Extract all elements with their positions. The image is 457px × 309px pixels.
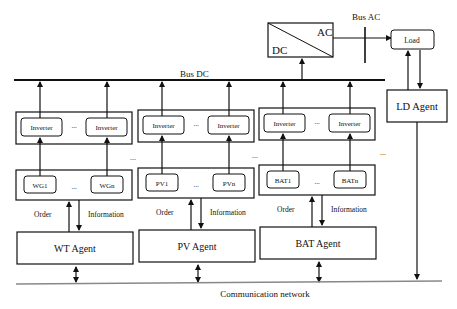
pv-unit-ellipsis: ... (193, 181, 199, 189)
pv-unit-last-label: PVn (223, 180, 236, 188)
wt-unit-last-label: WGn (99, 182, 115, 190)
bat-group: InverterInverter...BAT1BATn...OrderInfor… (259, 82, 376, 282)
pv-inverter-ellipsis: ... (193, 120, 199, 128)
converter-dc-label: DC (272, 44, 287, 56)
communication-network-label: Communication network (220, 289, 310, 299)
bus-dc-label: Bus DC (180, 69, 209, 79)
wt-inverter-last-label: Inverter (95, 124, 118, 132)
pv-agent-label: PV Agent (178, 241, 217, 252)
pv-inverter-last-label: Inverter (217, 122, 240, 130)
bus-ac-label: Bus AC (352, 12, 380, 22)
bat-unit-first-label: BAT1 (275, 177, 292, 185)
communication-network-line (16, 281, 442, 284)
wt-group: InverterInverter...WG1WGn...OrderInforma… (16, 82, 133, 282)
bat-unit-last-label: BATn (342, 177, 359, 185)
pv-information-label: Information (210, 208, 246, 217)
ellipsis-between-pv-bat: ... (252, 151, 258, 160)
pv-unit-first-label: PV1 (156, 180, 169, 188)
ellipsis-between-wt-pv: ... (130, 153, 136, 162)
bat-inverter-first-label: Inverter (273, 120, 296, 128)
bat-unit-ellipsis: ... (314, 178, 320, 186)
ellipsis-after-bat: ... (380, 148, 386, 157)
microgrid-agent-diagram: AC DC Bus AC Load Bus DC LD Agent Invert… (0, 0, 457, 309)
pv-order-label: Order (156, 208, 174, 217)
ld-agent-label: LD Agent (396, 101, 438, 112)
pv-group: InverterInverter...PV1PVn...OrderInforma… (138, 82, 255, 282)
wt-inverter-ellipsis: ... (71, 122, 77, 130)
wt-information-label: Information (88, 210, 124, 219)
wt-unit-first-label: WG1 (32, 182, 48, 190)
pv-inverter-first-label: Inverter (152, 122, 175, 130)
wt-inverter-first-label: Inverter (30, 124, 53, 132)
wt-unit-ellipsis: ... (71, 183, 77, 191)
bat-inverter-ellipsis: ... (314, 118, 320, 126)
bat-information-label: Information (331, 205, 367, 214)
wt-order-label: Order (34, 210, 52, 219)
converter-ac-label: AC (317, 26, 332, 38)
dc-ac-converter: AC DC (268, 23, 333, 57)
bat-inverter-last-label: Inverter (338, 120, 361, 128)
wt-agent-label: WT Agent (54, 243, 96, 254)
bat-order-label: Order (277, 205, 295, 214)
load-label: Load (404, 36, 420, 45)
bat-agent-label: BAT Agent (295, 238, 340, 249)
